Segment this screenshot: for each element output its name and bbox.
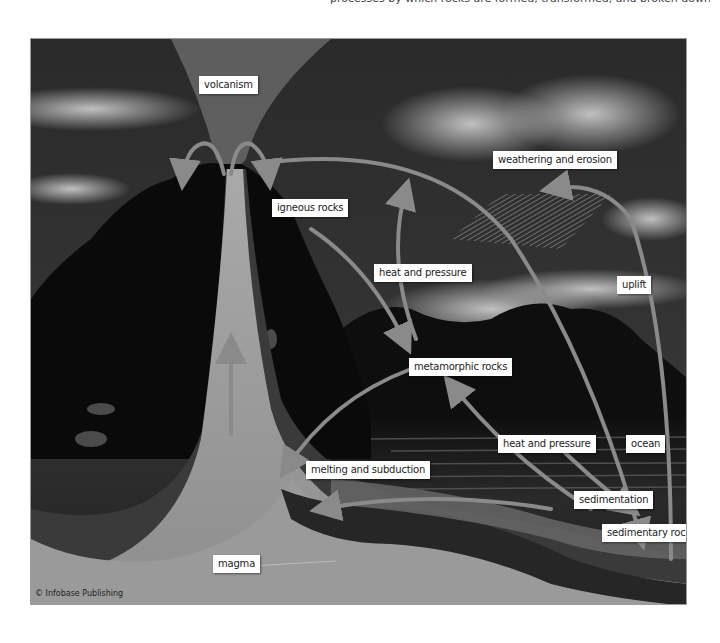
label-weathering-and-erosion: weathering and erosion (493, 151, 617, 169)
label-magma: magma (213, 555, 260, 573)
label-metamorphic-rocks: metamorphic rocks (409, 358, 512, 376)
label-igneous-rocks: igneous rocks (272, 199, 348, 217)
label-uplift: uplift (617, 276, 651, 294)
label-sedimentary-rocks: sedimentary rocks (602, 524, 687, 542)
diagram-artwork (31, 39, 687, 605)
label-melting-and-subduction: melting and subduction (306, 461, 430, 479)
caption-text: processes by which rocks are formed, tra… (330, 0, 710, 6)
label-heat-and-pressure-upper: heat and pressure (374, 264, 472, 282)
label-heat-and-pressure-lower: heat and pressure (498, 435, 596, 453)
rock-cycle-diagram: volcanism igneous rocks weathering and e… (30, 38, 687, 605)
label-sedimentation: sedimentation (574, 491, 653, 509)
label-ocean: ocean (626, 435, 665, 453)
copyright-credit: © Infobase Publishing (35, 589, 123, 598)
label-volcanism: volcanism (199, 76, 258, 94)
